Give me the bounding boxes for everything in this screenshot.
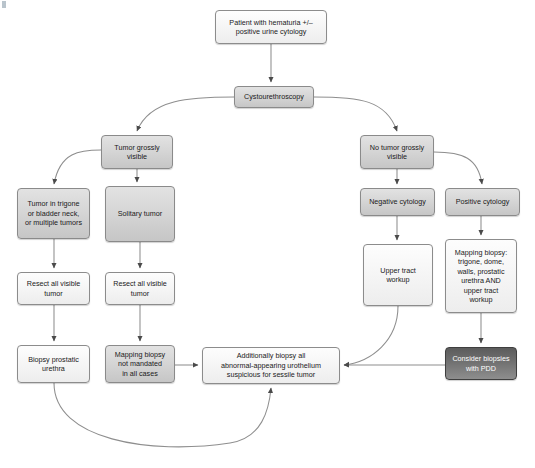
node-label: Positive cytology	[456, 197, 510, 207]
node-negative-cytology[interactable]: Negative cytology	[360, 188, 435, 216]
edge-cysto-to-no-tumor-visible	[314, 97, 397, 131]
node-tumor-grossly-visible[interactable]: Tumor grossly visible	[101, 135, 173, 169]
node-label: No tumor grossly visible	[370, 143, 424, 162]
node-label: Negative cytology	[369, 197, 426, 207]
node-label: Solitary tumor	[118, 209, 162, 219]
node-resect-all-visible-tumor-left[interactable]: Resect all visible tumor	[17, 272, 90, 305]
node-tumor-in-trigone[interactable]: Tumor in trigone or bladder neck, or mul…	[17, 188, 90, 239]
flowchart-canvas: Patient with hematuria +/– positive urin…	[0, 0, 535, 468]
corner-marker	[2, 1, 6, 8]
edge-tumor-visible-to-trigone	[54, 150, 101, 184]
node-upper-tract-workup[interactable]: Upper tract workup	[363, 244, 433, 306]
node-label: Mapping biopsy: trigone, dome, walls, pr…	[455, 248, 507, 305]
node-label: Tumor grossly visible	[114, 143, 159, 162]
node-label: Consider biopsies with PDD	[452, 354, 509, 373]
node-mapping-biopsy-not-mandated[interactable]: Mapping biopsy not mandated in all cases	[105, 345, 175, 383]
edge-no-tumor-to-positive-cytology	[434, 152, 482, 184]
node-label: Cystourethroscopy	[244, 92, 304, 102]
node-label: Upper tract workup	[380, 266, 416, 285]
edge-upper-tract-to-additionally	[344, 306, 398, 365]
node-label: Tumor in trigone or bladder neck, or mul…	[25, 199, 82, 228]
node-label: Mapping biopsy not mandated in all cases	[115, 350, 165, 379]
node-label: Resect all visible tumor	[27, 279, 81, 298]
node-mapping-biopsy-positive[interactable]: Mapping biopsy: trigone, dome, walls, pr…	[445, 239, 517, 313]
node-resect-all-visible-tumor-right[interactable]: Resect all visible tumor	[105, 272, 175, 305]
edge-biopsy-prostatic-to-additionally	[54, 383, 271, 447]
node-no-tumor-grossly-visible[interactable]: No tumor grossly visible	[360, 135, 434, 169]
node-label: Additionally biopsy all abnormal-appeari…	[221, 351, 321, 380]
node-biopsy-prostatic-urethra[interactable]: Biopsy prostatic urethra	[17, 345, 90, 383]
node-label: Resect all visible tumor	[113, 279, 167, 298]
node-label: Biopsy prostatic urethra	[28, 355, 79, 374]
node-consider-biopsies-with-pdd[interactable]: Consider biopsies with PDD	[445, 347, 517, 380]
node-solitary-tumor[interactable]: Solitary tumor	[105, 186, 175, 242]
node-positive-cytology[interactable]: Positive cytology	[445, 188, 520, 216]
node-patient-with-hematuria[interactable]: Patient with hematuria +/– positive urin…	[215, 10, 327, 44]
node-label: Patient with hematuria +/– positive urin…	[229, 18, 312, 37]
node-additionally-biopsy[interactable]: Additionally biopsy all abnormal-appeari…	[202, 347, 340, 384]
edge-cysto-to-tumor-visible	[137, 97, 234, 131]
node-cystourethroscopy[interactable]: Cystourethroscopy	[234, 86, 314, 108]
